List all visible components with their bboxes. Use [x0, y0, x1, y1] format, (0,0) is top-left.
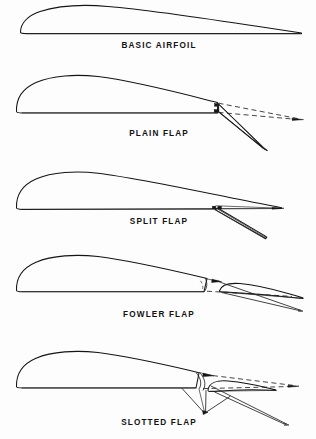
label-basic-airfoil: BASIC AIRFOIL — [121, 41, 196, 50]
airfoil-flap-diagram: BASIC AIRFOIL PLAIN FLAP — [0, 0, 316, 439]
label-plain-flap: PLAIN FLAP — [129, 129, 189, 138]
label-slotted-flap: SLOTTED FLAP — [121, 418, 197, 427]
label-split-flap: SPLIT FLAP — [130, 217, 188, 226]
label-fowler-flap: FOWLER FLAP — [123, 310, 195, 319]
split-flap-hinge-block-left — [212, 206, 215, 209]
figure-canvas: BASIC AIRFOIL PLAIN FLAP — [0, 0, 316, 439]
